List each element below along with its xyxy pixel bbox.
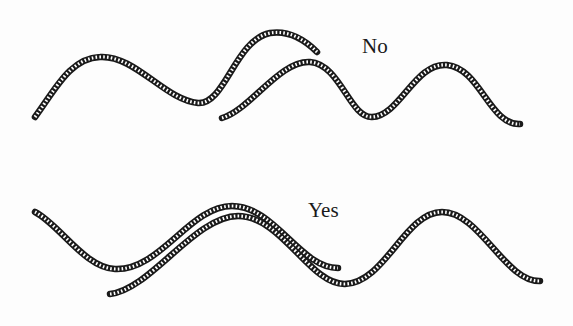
rope-strand-b	[222, 62, 520, 124]
rope-diagram: No Yes	[0, 0, 573, 326]
rope-strand-c	[35, 206, 338, 269]
yes-example	[35, 206, 540, 294]
no-example	[35, 32, 520, 124]
rope-illustration	[0, 0, 573, 326]
yes-label: Yes	[308, 200, 339, 221]
no-label: No	[362, 36, 388, 57]
rope-strand-d	[110, 212, 540, 294]
